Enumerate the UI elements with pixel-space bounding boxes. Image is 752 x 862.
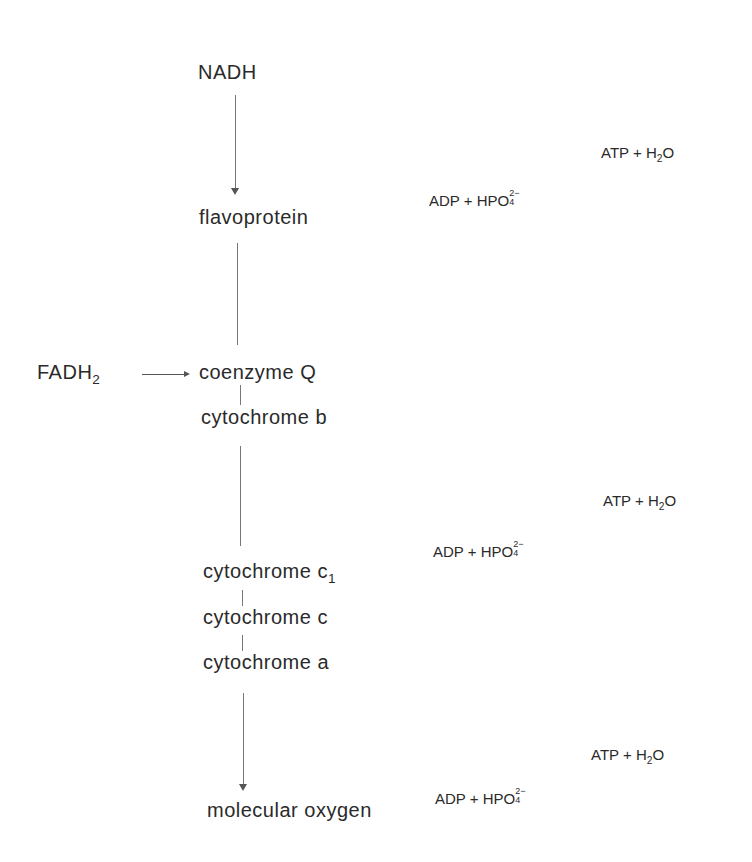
cytochrome-c1-label: cytochrome c1 [203, 560, 336, 586]
atp-product-1: ATP + H2O [601, 144, 674, 164]
h2o-tail: O [664, 492, 676, 509]
fadh2-subscript: 2 [92, 372, 100, 387]
phosphate-subscript: 4 [513, 549, 523, 558]
fadh2-to-coq-arrow [142, 374, 186, 375]
adp-text: ADP + HPO [433, 543, 513, 560]
cytc1-to-cytc-line [242, 590, 243, 606]
atp-text: ATP + H [603, 492, 659, 509]
cytochrome-a-label: cytochrome a [203, 651, 329, 674]
cytochrome-c-label: cytochrome c [203, 606, 328, 629]
atp-product-2: ATP + H2O [603, 492, 676, 512]
atp-product-3: ATP + H2O [591, 746, 664, 766]
flavoprotein-to-coq-line [237, 243, 238, 345]
adp-text: ADP + HPO [435, 790, 515, 807]
coenzyme-q-label: coenzyme Q [199, 361, 316, 384]
phosphate-charge: 2−4 [515, 787, 525, 804]
h2o-tail: O [662, 144, 674, 161]
cytc-to-cyta-line [242, 635, 243, 651]
cytochrome-c1-base: cytochrome c [203, 560, 328, 582]
nadh-label: NADH [198, 61, 257, 84]
fadh2-label: FADH2 [37, 361, 100, 387]
phosphate-subscript: 4 [515, 796, 525, 805]
phosphate-charge: 2−4 [513, 540, 523, 557]
phosphate-subscript: 4 [509, 198, 519, 207]
arrowhead-icon [239, 784, 247, 791]
adp-text: ADP + HPO [429, 192, 509, 209]
adp-substrate-1: ADP + HPO2−4 [429, 192, 519, 209]
atp-text: ATP + H [591, 746, 647, 763]
nadh-to-flavoprotein-arrow [235, 95, 236, 190]
cytochrome-c1-subscript: 1 [328, 571, 336, 586]
phosphate-charge: 2−4 [509, 189, 519, 206]
flavoprotein-label: flavoprotein [199, 206, 308, 229]
molecular-oxygen-label: molecular oxygen [207, 799, 372, 822]
fadh2-base: FADH [37, 361, 92, 383]
adp-substrate-3: ADP + HPO2−4 [435, 790, 525, 807]
adp-substrate-2: ADP + HPO2−4 [433, 543, 523, 560]
arrowhead-right-icon [184, 371, 190, 377]
h2o-tail: O [652, 746, 664, 763]
cytb-to-cytc1-line [240, 446, 241, 546]
coq-to-cytb-line [240, 385, 241, 405]
cytochrome-b-label: cytochrome b [201, 406, 327, 429]
arrowhead-icon [231, 188, 239, 195]
atp-text: ATP + H [601, 144, 657, 161]
cyta-to-oxygen-arrow [243, 693, 244, 786]
